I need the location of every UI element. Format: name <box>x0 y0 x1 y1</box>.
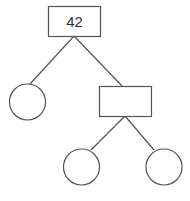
edge-root-left <box>30 36 74 84</box>
tree-diagram: 42 <box>0 0 190 201</box>
right-left-leaf-node <box>64 149 100 185</box>
edge-internal-left <box>91 116 125 150</box>
root-label: 42 <box>66 13 83 30</box>
edge-internal-right <box>125 116 154 150</box>
right-right-leaf-node <box>146 149 182 185</box>
edge-root-right <box>74 36 122 86</box>
right-internal-node <box>100 87 152 117</box>
left-leaf-node <box>10 84 46 120</box>
